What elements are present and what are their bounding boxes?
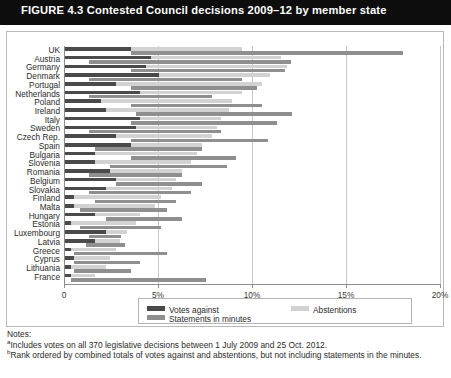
gridline-20% (440, 46, 441, 284)
bar-segment-abstentions (106, 108, 228, 112)
bar-segment-abstentions (101, 99, 233, 103)
plot-area: 05%10%15%20%UKAustriaGermanyDenmarkPortu… (64, 46, 440, 284)
x-axis-label: 20% (432, 290, 449, 300)
bar-segment-votes-against (65, 152, 95, 156)
bar-segment-abstentions (95, 160, 191, 164)
figure-title-bar: FIGURE 4.3 Contested Council decisions 2… (0, 0, 451, 25)
bar-segment-abstentions (131, 47, 242, 51)
bar-segment-votes-against (65, 195, 74, 199)
bar-segment-abstentions (71, 248, 116, 252)
bar-segment-abstentions (151, 56, 281, 60)
note-b-text: Rank ordered by combined totals of votes… (10, 350, 421, 360)
bar-segment-abstentions (159, 73, 270, 77)
bar-segment-votes-against (65, 187, 106, 191)
bar-segment-statements-in-minutes (71, 278, 206, 282)
bar-segment-votes-against (65, 178, 116, 182)
x-tick-0 (64, 284, 65, 288)
bar-segment-abstentions (95, 213, 140, 217)
bar-segment-abstentions (95, 152, 197, 156)
x-tick-10% (252, 284, 253, 288)
bar-segment-abstentions (110, 169, 181, 173)
y-axis-label-france: France (34, 273, 60, 282)
bar-segment-votes-against (65, 126, 136, 130)
x-tick-20% (440, 284, 441, 288)
bar-segment-abstentions (95, 239, 119, 243)
legend-swatch-abstentions (291, 306, 309, 312)
notes-block: Notes: aIncludes votes on all 370 legisl… (7, 329, 445, 361)
x-axis-label: 0 (62, 290, 67, 300)
bar-segment-abstentions (136, 126, 217, 130)
x-tick-15% (346, 284, 347, 288)
bar-segment-votes-against (65, 239, 95, 243)
bar-segment-votes-against (65, 108, 106, 112)
bar-segment-abstentions (74, 204, 155, 208)
chart-row: France (64, 273, 440, 282)
bar-segment-votes-against (65, 169, 110, 173)
bar-segment-abstentions (140, 117, 221, 121)
legend-swatch-statements (147, 315, 165, 321)
note-b: bRank ordered by combined totals of vote… (7, 350, 445, 361)
bar-segment-abstentions (116, 178, 176, 182)
legend-swatch-votes-against (147, 306, 165, 312)
figure-title: FIGURE 4.3 Contested Council decisions 2… (21, 4, 387, 16)
legend-label-statements: Statements in minutes (169, 314, 251, 324)
bar-segment-abstentions (71, 221, 137, 225)
bar-segment-abstentions (71, 265, 107, 269)
bar-segment-abstentions (146, 65, 287, 69)
x-tick-5% (158, 284, 159, 288)
chart-legend: Votes againstAbstentionsStatements in mi… (138, 298, 412, 324)
bar-segment-votes-against (65, 256, 74, 260)
bar-segment-votes-against (65, 47, 131, 51)
bar-segment-abstentions (116, 82, 263, 86)
chart-frame: 05%10%15%20%UKAustriaGermanyDenmarkPortu… (6, 31, 444, 327)
bar-segment-votes-against (65, 56, 151, 60)
bar-segment-abstentions (74, 256, 110, 260)
bar-segment-votes-against (65, 91, 140, 95)
bar-segment-abstentions (74, 195, 160, 199)
bar-segment-abstentions (71, 274, 95, 278)
bar-segment-votes-against (65, 160, 95, 164)
note-a: aIncludes votes on all 370 legislative d… (7, 340, 445, 351)
bar-segment-votes-against (65, 65, 146, 69)
legend-label-abstentions: Abstentions (313, 305, 356, 315)
bar-segment-abstentions (131, 143, 202, 147)
bar-segment-votes-against (65, 82, 116, 86)
bar-segment-abstentions (106, 230, 127, 234)
note-a-text: Includes votes on all 370 legislative de… (10, 340, 327, 350)
bar-segment-abstentions (106, 187, 172, 191)
bar-segment-votes-against (65, 143, 131, 147)
bar-segment-abstentions (116, 134, 212, 138)
bar-segment-votes-against (65, 204, 74, 208)
bar-segment-votes-against (65, 117, 140, 121)
bar-segment-votes-against (65, 213, 95, 217)
bar-segment-votes-against (65, 134, 116, 138)
notes-heading: Notes: (7, 329, 445, 340)
bar-segment-votes-against (65, 73, 159, 77)
bar-segment-votes-against (65, 99, 101, 103)
bar-segment-abstentions (140, 91, 242, 95)
bar-segment-votes-against (65, 230, 106, 234)
